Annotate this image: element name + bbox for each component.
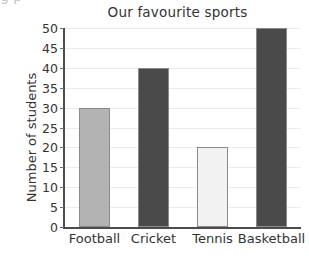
y-tick-mark bbox=[60, 28, 64, 29]
x-tick-label-football: Football bbox=[69, 231, 120, 246]
y-tick-label: 40 bbox=[42, 60, 58, 75]
y-tick-label: 10 bbox=[42, 180, 58, 195]
y-tick-label: 50 bbox=[42, 21, 58, 36]
x-tick-label-cricket: Cricket bbox=[131, 231, 176, 246]
y-tick-mark bbox=[60, 167, 64, 168]
x-axis-line bbox=[63, 227, 301, 229]
y-tick-label: 15 bbox=[42, 160, 58, 175]
bar-football[interactable] bbox=[79, 108, 110, 227]
y-tick-label: 20 bbox=[42, 140, 58, 155]
bar-tennis[interactable] bbox=[197, 147, 228, 227]
y-tick-mark bbox=[60, 68, 64, 69]
x-tick-label-tennis: Tennis bbox=[192, 231, 233, 246]
bars-group bbox=[65, 28, 301, 227]
y-tick-mark bbox=[60, 108, 64, 109]
y-tick-label: 5 bbox=[50, 200, 58, 215]
y-tick-label: 0 bbox=[50, 220, 58, 235]
y-tick-mark bbox=[60, 48, 64, 49]
y-tick-mark bbox=[60, 207, 64, 208]
y-tick-mark bbox=[60, 147, 64, 148]
bar-chart-figure: g p Our favourite sports Number of stude… bbox=[0, 0, 309, 260]
bar-cricket[interactable] bbox=[138, 68, 169, 227]
x-tick-labels: FootballCricketTennisBasketball bbox=[63, 231, 303, 255]
bar-basketball[interactable] bbox=[256, 28, 287, 227]
scan-artifact-text: g p bbox=[0, 0, 22, 4]
y-tick-label: 45 bbox=[42, 40, 58, 55]
y-tick-label: 25 bbox=[42, 120, 58, 135]
y-tick-label: 35 bbox=[42, 80, 58, 95]
y-tick-mark bbox=[60, 128, 64, 129]
y-axis-title: Number of students bbox=[24, 58, 39, 218]
y-tick-mark bbox=[60, 88, 64, 89]
chart-title: Our favourite sports bbox=[55, 4, 300, 20]
plot-area: 05101520253035404550 bbox=[63, 28, 301, 228]
x-tick-label-basketball: Basketball bbox=[238, 231, 305, 246]
y-tick-mark bbox=[60, 187, 64, 188]
y-tick-label: 30 bbox=[42, 100, 58, 115]
y-tick-mark bbox=[60, 227, 64, 228]
